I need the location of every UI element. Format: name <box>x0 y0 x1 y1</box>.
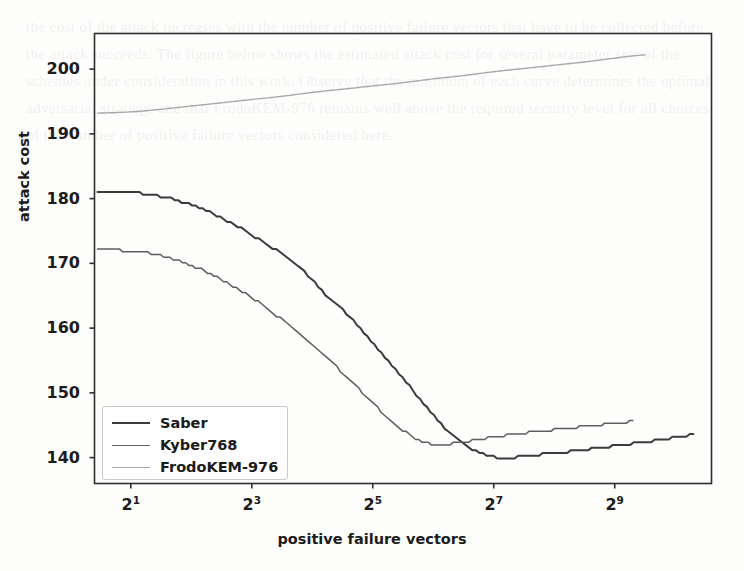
x-tick-label: 29 <box>585 494 645 514</box>
legend-swatch-saber <box>112 422 150 424</box>
chart-figure: the cost of the attack increases with th… <box>0 0 744 571</box>
legend-item-kyber768: Kyber768 <box>112 434 237 456</box>
x-tick-label: 21 <box>101 494 161 514</box>
y-tick-label: 150 <box>18 383 80 402</box>
legend-swatch-kyber768 <box>112 445 150 446</box>
x-tick-label: 25 <box>343 494 403 514</box>
x-axis-label: positive failure vectors <box>0 531 744 547</box>
legend-label-saber: Saber <box>160 415 208 431</box>
series-line-frodokem-976 <box>98 55 645 113</box>
y-axis-label: attack cost <box>16 131 32 222</box>
legend-item-frodokem-976: FrodoKEM-976 <box>112 456 278 478</box>
plot-area <box>0 0 744 571</box>
legend-label-frodokem-976: FrodoKEM-976 <box>160 459 278 475</box>
legend: Saber Kyber768 FrodoKEM-976 <box>102 406 288 480</box>
x-tick-label: 23 <box>222 494 282 514</box>
y-tick-label: 140 <box>18 448 80 467</box>
legend-item-saber: Saber <box>112 412 208 434</box>
x-tick-label: 27 <box>464 494 524 514</box>
legend-swatch-frodokem-976 <box>112 467 150 468</box>
y-tick-label: 160 <box>18 318 80 337</box>
y-tick-label: 180 <box>18 189 80 208</box>
data-series-group <box>98 55 694 459</box>
legend-label-kyber768: Kyber768 <box>160 437 237 453</box>
y-tick-label: 170 <box>18 253 80 272</box>
y-tick-label: 200 <box>18 59 80 78</box>
y-tick-label: 190 <box>18 124 80 143</box>
